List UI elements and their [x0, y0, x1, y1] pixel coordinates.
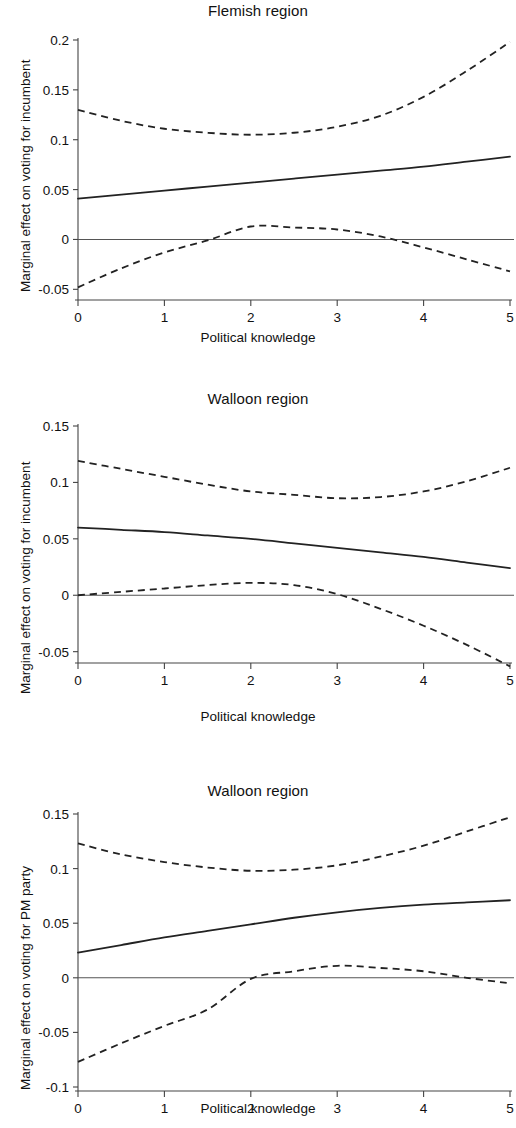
y-tick-label: 0	[61, 232, 69, 247]
confidence-bound-line	[78, 461, 510, 498]
y-tick-label: -0.1	[46, 1080, 69, 1095]
y-tick-label: 0.1	[50, 862, 69, 877]
marginal-effect-line	[78, 900, 510, 952]
x-tick-label: 0	[74, 673, 82, 688]
plot-area: 0.150.10.050-0.05012345	[0, 376, 516, 706]
x-tick-label: 3	[333, 310, 341, 325]
plot-area: 0.150.10.050-0.05-0.1012345	[0, 760, 516, 1100]
x-tick-label: 2	[247, 310, 255, 325]
plot-svg: 0.150.10.050-0.05-0.1012345	[0, 760, 516, 1100]
panel-walloon-incumbent: Walloon region Marginal effect on voting…	[0, 376, 516, 746]
x-axis-label: Political knowledge	[0, 709, 516, 724]
x-tick-label: 4	[420, 673, 428, 688]
panel-flemish-incumbent: Flemish region Marginal effect on voting…	[0, 0, 516, 370]
marginal-effect-line	[78, 528, 510, 569]
y-tick-label: 0.15	[43, 83, 69, 98]
confidence-bound-line	[78, 226, 510, 288]
x-tick-label: 3	[333, 673, 341, 688]
plot-svg: 0.150.10.050-0.05012345	[0, 376, 516, 706]
y-tick-label: 0.15	[43, 807, 69, 822]
confidence-bound-line	[78, 42, 510, 135]
y-tick-label: 0.1	[50, 133, 69, 148]
y-tick-label: -0.05	[38, 282, 69, 297]
y-tick-label: 0	[61, 588, 69, 603]
x-tick-label: 2	[247, 673, 255, 688]
y-tick-label: 0.05	[43, 532, 69, 547]
y-tick-label: -0.05	[38, 645, 69, 660]
confidence-bound-line	[78, 966, 510, 1062]
x-axis-label: Political knowledge	[0, 1101, 516, 1116]
y-tick-label: 0.15	[43, 419, 69, 434]
x-tick-label: 5	[506, 310, 514, 325]
y-tick-label: 0.1	[50, 475, 69, 490]
marginal-effect-line	[78, 157, 510, 199]
x-tick-label: 5	[506, 673, 514, 688]
y-tick-label: 0.2	[50, 33, 69, 48]
y-tick-label: -0.05	[38, 1025, 69, 1040]
x-tick-label: 1	[161, 673, 169, 688]
x-tick-label: 0	[74, 310, 82, 325]
y-tick-label: 0	[61, 971, 69, 986]
confidence-bound-line	[78, 817, 510, 871]
plot-svg: 0.20.150.10.050-0.05012345	[0, 0, 516, 310]
y-tick-label: 0.05	[43, 183, 69, 198]
x-tick-label: 4	[420, 310, 428, 325]
plot-area: 0.20.150.10.050-0.05012345	[0, 0, 516, 310]
panel-walloon-pm-party: Walloon region Marginal effect on voting…	[0, 760, 516, 1128]
x-tick-label: 1	[161, 310, 169, 325]
x-axis-label: Political knowledge	[0, 330, 516, 345]
y-tick-label: 0.05	[43, 916, 69, 931]
